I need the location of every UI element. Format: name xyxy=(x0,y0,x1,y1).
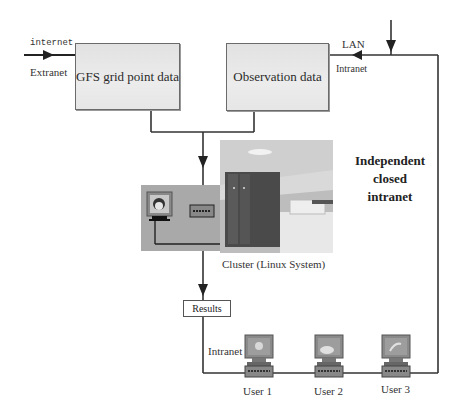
computer-icon xyxy=(314,334,344,378)
cluster-photo xyxy=(220,140,333,253)
gfs-data-label: GFS grid point data xyxy=(76,69,179,85)
note-line-3: intranet xyxy=(344,188,436,206)
server-rack-icon xyxy=(220,140,333,253)
user-2-label: User 2 xyxy=(314,385,343,397)
observation-data-label: Observation data xyxy=(233,69,321,85)
internet-label: internet xyxy=(30,38,73,48)
network-diagram: GFS grid point data Observation data int… xyxy=(0,0,460,420)
computer-icon xyxy=(244,334,274,378)
user-3-label: User 3 xyxy=(381,383,410,395)
closed-intranet-note: Independent closed intranet xyxy=(344,152,436,206)
intranet-bottom-label: Intranet xyxy=(208,345,242,357)
cluster-console-panel xyxy=(141,185,225,251)
lan-label: LAN xyxy=(342,38,365,50)
note-line-2: closed xyxy=(344,170,436,188)
results-node: Results xyxy=(183,300,231,317)
user-1-terminal xyxy=(244,334,274,378)
console-terminal-icon xyxy=(141,185,225,251)
observation-data-node: Observation data xyxy=(226,43,329,111)
computer-icon xyxy=(381,334,411,378)
intranet-top-label: Intranet xyxy=(336,63,367,74)
results-label: Results xyxy=(192,303,221,314)
extranet-label: Extranet xyxy=(30,66,67,78)
cluster-label: Cluster (Linux System) xyxy=(222,258,325,270)
note-line-1: Independent xyxy=(344,152,436,170)
gfs-data-node: GFS grid point data xyxy=(75,43,180,110)
user-2-terminal xyxy=(314,334,344,378)
user-3-terminal xyxy=(381,334,411,378)
user-1-label: User 1 xyxy=(243,385,272,397)
